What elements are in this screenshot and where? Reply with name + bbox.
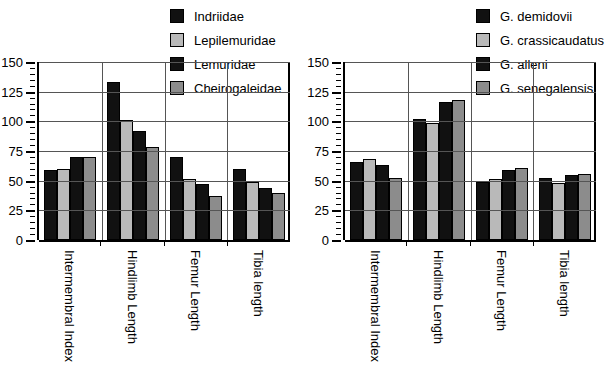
y-tick-mark	[332, 181, 341, 183]
y-tick-label: 150	[307, 56, 329, 69]
x-tick-mark	[164, 240, 165, 246]
bar[interactable]	[133, 131, 146, 240]
y-tick-mark	[30, 228, 35, 229]
y-tick-label: 0	[16, 234, 23, 247]
x-axis-label: Femur Length	[189, 250, 202, 331]
y-tick-mark	[336, 80, 341, 81]
y-tick-mark	[26, 181, 35, 183]
y-tick-mark	[30, 104, 35, 105]
y-tick-mark	[30, 145, 35, 146]
bar[interactable]	[209, 196, 222, 240]
y-tick-mark	[332, 240, 341, 242]
chart-panel-right: G. demidovii G. crassicaudatus G. alleni…	[306, 0, 612, 385]
y-tick-mark	[30, 193, 35, 194]
y-tick-mark	[336, 115, 341, 116]
bar[interactable]	[363, 159, 376, 240]
y-tick-label: 25	[9, 204, 23, 217]
x-axis-ticks-right	[343, 240, 596, 246]
x-tick-mark	[100, 240, 101, 246]
bar[interactable]	[233, 169, 246, 240]
y-tick-mark	[336, 204, 341, 205]
legend-swatch-icon	[476, 9, 490, 23]
x-label-cell: Tibia length	[533, 250, 596, 380]
y-tick-mark	[332, 92, 341, 94]
y-tick-mark	[30, 109, 35, 110]
bar[interactable]	[196, 184, 209, 240]
plot-area-right	[343, 62, 596, 240]
legend-label: Indriidae	[194, 10, 244, 23]
legend-item: Lepilemuridae	[170, 28, 281, 52]
x-label-cell: Femur Length	[164, 250, 227, 380]
y-axis-right: 0255075100125150	[306, 62, 339, 240]
y-tick-label: 0	[322, 234, 329, 247]
bar[interactable]	[539, 178, 552, 240]
x-label-cell: Hindlimb Length	[406, 250, 469, 380]
x-label-cell: Femur Length	[470, 250, 533, 380]
y-tick-mark	[336, 104, 341, 105]
bar[interactable]	[565, 175, 578, 240]
y-tick-label: 125	[307, 86, 329, 99]
bar[interactable]	[70, 157, 83, 240]
y-tick-mark	[30, 133, 35, 134]
x-label-cell: Tibia length	[227, 250, 290, 380]
y-tick-mark	[30, 175, 35, 176]
y-tick-mark	[336, 127, 341, 128]
y-tick-mark	[332, 121, 341, 123]
y-tick-mark	[336, 74, 341, 75]
group-separator	[227, 62, 228, 240]
bar[interactable]	[57, 169, 70, 240]
bar[interactable]	[376, 165, 389, 240]
bar[interactable]	[146, 147, 159, 240]
x-tick-mark	[470, 240, 471, 246]
group-separator	[102, 62, 103, 240]
bar[interactable]	[515, 168, 528, 240]
bar[interactable]	[350, 162, 363, 240]
y-tick-mark	[30, 80, 35, 81]
y-tick-mark	[336, 175, 341, 176]
y-tick-mark	[26, 151, 35, 153]
x-label-cell: Hindlimb Length	[100, 250, 163, 380]
x-axis-label: Intermembral Index	[62, 250, 75, 362]
y-tick-mark	[336, 68, 341, 69]
x-axis-label: Tibia length	[558, 250, 571, 317]
bar[interactable]	[413, 119, 426, 240]
bar[interactable]	[552, 183, 565, 240]
legend-item: G. crassicaudatus	[476, 28, 604, 52]
legend-label: G. crassicaudatus	[500, 34, 604, 47]
y-tick-mark	[336, 234, 341, 235]
bar[interactable]	[83, 157, 96, 240]
group-separator	[408, 62, 409, 240]
y-tick-mark	[30, 187, 35, 188]
x-axis-ticks-left	[37, 240, 290, 246]
y-tick-mark	[332, 151, 341, 153]
y-tick-label: 50	[315, 175, 329, 188]
y-tick-mark	[336, 228, 341, 229]
y-tick-mark	[336, 157, 341, 158]
y-tick-mark	[336, 169, 341, 170]
bar[interactable]	[272, 193, 285, 240]
y-tick-mark	[336, 163, 341, 164]
y-tick-mark	[30, 127, 35, 128]
bar[interactable]	[389, 178, 402, 240]
legend-item: G. demidovii	[476, 4, 604, 28]
legend-swatch-icon	[170, 9, 184, 23]
y-tick-label: 75	[9, 145, 23, 158]
y-tick-mark	[26, 210, 35, 212]
y-tick-label: 100	[1, 115, 23, 128]
bar[interactable]	[170, 157, 183, 240]
y-tick-mark	[30, 74, 35, 75]
y-tick-mark	[336, 98, 341, 99]
bar[interactable]	[578, 174, 591, 240]
bar[interactable]	[107, 82, 120, 240]
x-axis-label: Hindlimb Length	[431, 250, 444, 344]
bar[interactable]	[439, 102, 452, 240]
x-axis-label: Hindlimb Length	[125, 250, 138, 344]
x-label-cell: Intermembral Index	[37, 250, 100, 380]
legend-label: G. demidovii	[500, 10, 572, 23]
legend-label: Lepilemuridae	[194, 34, 276, 47]
y-tick-label: 25	[315, 204, 329, 217]
group-separator	[165, 62, 166, 240]
y-tick-label: 75	[315, 145, 329, 158]
x-axis-labels-left: Intermembral IndexHindlimb LengthFemur L…	[37, 250, 290, 380]
bar[interactable]	[259, 188, 272, 240]
